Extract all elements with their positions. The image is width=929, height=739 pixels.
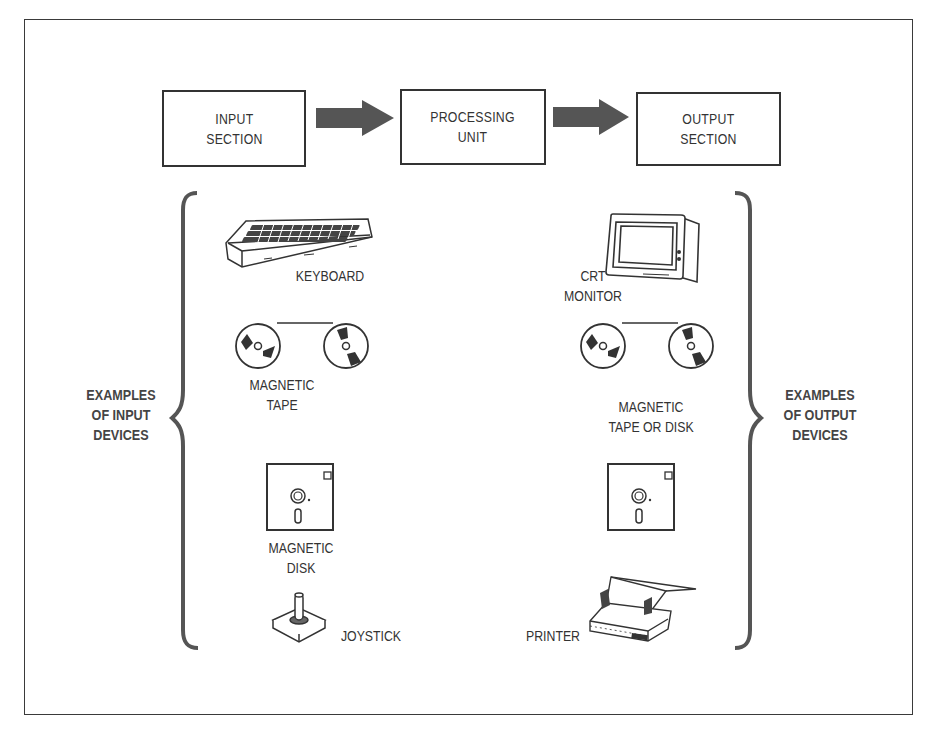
input-devices-heading: EXAMPLES OF INPUT DEVICES	[72, 385, 171, 445]
arrow-right-icon	[553, 99, 633, 135]
keyboard-label: KEYBOARD	[293, 266, 367, 286]
printer-icon	[586, 575, 701, 643]
joystick-icon	[271, 590, 331, 646]
output-section-box: OUTPUT SECTION	[636, 92, 781, 166]
arrow-right-icon	[316, 100, 396, 136]
input-section-label: INPUT SECTION	[206, 109, 262, 149]
right-brace-icon	[730, 190, 770, 652]
tape-reels-icon	[578, 318, 718, 372]
output-devices-heading: EXAMPLES OF OUTPUT DEVICES	[768, 385, 872, 445]
printer-label: PRINTER	[516, 626, 590, 646]
magnetic-disk-label: MAGNETIC DISK	[260, 538, 342, 578]
crt-monitor-label: CRT MONITOR	[552, 266, 634, 306]
floppy-disk-icon	[607, 463, 677, 533]
output-section-label: OUTPUT SECTION	[680, 109, 736, 149]
keyboard-icon	[224, 215, 374, 270]
processing-unit-box: PROCESSING UNIT	[400, 89, 546, 165]
tape-reels-icon	[233, 318, 373, 372]
joystick-label: JOYSTICK	[334, 626, 408, 646]
left-brace-icon	[165, 190, 205, 652]
processing-unit-label: PROCESSING UNIT	[431, 107, 515, 147]
magnetic-tape-or-disk-label: MAGNETIC TAPE OR DISK	[590, 397, 713, 437]
input-section-box: INPUT SECTION	[162, 90, 306, 167]
magnetic-tape-label: MAGNETIC TAPE	[241, 375, 323, 415]
floppy-disk-icon	[266, 463, 336, 533]
